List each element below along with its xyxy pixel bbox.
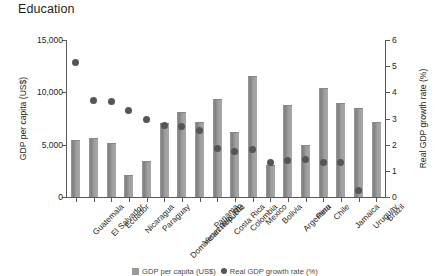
x-axis-tick [288, 198, 289, 202]
y-axis-right-tick-label: 2 [392, 141, 397, 150]
y-axis-left-title: GDP per capita (US$) [18, 40, 30, 197]
y-axis-right-tick [386, 66, 390, 67]
marker-costa-rica [214, 145, 221, 152]
bar-paraguay [142, 161, 151, 197]
bar-ecuador [107, 143, 116, 197]
marker-guatemala [72, 59, 79, 66]
marker-ecuador [108, 98, 115, 105]
marker-dominican-republic [161, 122, 168, 129]
legend-item-dot: Real GDP growth rate (%) [221, 267, 318, 276]
y-axis-right-tick-label: 0 [392, 193, 397, 202]
legend-label-bar: GDP per capita (US$) [142, 267, 216, 276]
x-axis-tick [111, 198, 112, 202]
x-axis-tick [341, 198, 342, 202]
y-axis-right-tick [386, 40, 390, 41]
bar-guatemala [71, 140, 80, 197]
bar-bolivia [266, 165, 275, 197]
plot-area: 05,00010,00015,000 0123456 [67, 40, 385, 197]
marker-peru [302, 156, 309, 163]
marker-nicaragua [125, 107, 132, 114]
bar-dominican-republic [160, 123, 169, 197]
bar-jamaica [336, 103, 345, 197]
x-axis-tick [94, 198, 95, 202]
bar-uruguay [354, 108, 363, 197]
y-axis-right-tick [386, 92, 390, 93]
y-axis-right-title: Real GDP growth rate (%) [418, 40, 430, 197]
x-axis-tick [217, 198, 218, 202]
bar-chile [319, 88, 328, 197]
bar-swatch-icon [132, 268, 139, 275]
y-axis-right-tick [386, 171, 390, 172]
x-axis-tick [235, 198, 236, 202]
bar-nicaragua [124, 175, 133, 197]
x-axis-tick [147, 198, 148, 202]
chart-title: Education [18, 2, 75, 16]
bar-peru [301, 145, 310, 197]
bar-el-salvador [89, 138, 98, 197]
dot-swatch-icon [221, 268, 227, 274]
marker-paraguay [143, 116, 150, 123]
marker-colombia [231, 148, 238, 155]
x-axis-tick [129, 198, 130, 202]
y-axis-left-tick-label: 10,000 [37, 88, 63, 97]
marker-panama [196, 127, 203, 134]
y-axis-right-tick-label: 1 [392, 167, 397, 176]
chart-container: Education GDP per capita (US$) Real GDP … [0, 0, 442, 276]
x-axis-tick [200, 198, 201, 202]
y-axis-right-tick-label: 3 [392, 115, 397, 124]
marker-uruguay [355, 187, 362, 194]
x-axis-tick [359, 198, 360, 202]
x-axis-tick [270, 198, 271, 202]
y-axis-right-tick-label: 4 [392, 88, 397, 97]
x-axis-tick [253, 198, 254, 202]
marker-el-salvador [90, 97, 97, 104]
y-axis-right-tick [386, 119, 390, 120]
bar-mexico [248, 76, 257, 197]
x-axis-tick [376, 198, 377, 202]
x-axis-tick [323, 198, 324, 202]
y-axis-left-tick-label: 5,000 [42, 141, 63, 150]
x-axis-label-chile: Chile [333, 203, 352, 222]
bar-brazil [372, 122, 381, 197]
x-axis-tick [76, 198, 77, 202]
x-axis-tick [164, 198, 165, 202]
y-axis-left-tick-label: 15,000 [37, 36, 63, 45]
y-axis-right-tick [386, 197, 390, 198]
y-axis-right-tick-label: 6 [392, 36, 397, 45]
x-axis-label-peru: Peru [315, 203, 333, 221]
y-axis-left-tick-label: 0 [58, 193, 63, 202]
x-axis-tick [306, 198, 307, 202]
y-axis-right-tick-label: 5 [392, 62, 397, 71]
legend-item-bar: GDP per capita (US$) [132, 267, 216, 276]
y-axis-right-tick [386, 145, 390, 146]
bar-argentina [283, 105, 292, 197]
x-axis-line [66, 197, 386, 198]
y-axis-left-line [66, 40, 67, 198]
x-axis-tick [182, 198, 183, 202]
chart-legend: GDP per capita (US$) Real GDP growth rat… [132, 266, 432, 276]
legend-label-dot: Real GDP growth rate (%) [230, 267, 318, 276]
bar-colombia [230, 132, 239, 197]
